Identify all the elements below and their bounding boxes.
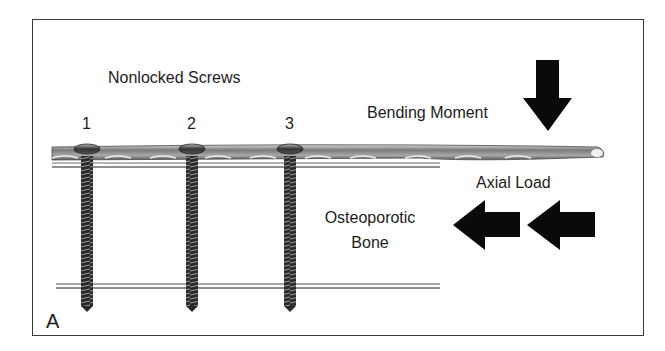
diagram-canvas xyxy=(0,0,665,351)
screw-3 xyxy=(277,144,303,312)
bone-cortex-bottom xyxy=(56,284,440,288)
axial-load-label: Axial Load xyxy=(476,175,551,191)
screw-number-2: 2 xyxy=(187,116,196,132)
nonlocked-screws-label: Nonlocked Screws xyxy=(108,70,241,86)
bone-cortex-top xyxy=(52,163,440,167)
screw-2 xyxy=(179,144,205,312)
axial-load-arrow-icon-1 xyxy=(453,200,520,250)
bending-moment-arrow-icon xyxy=(523,60,572,131)
bending-moment-label: Bending Moment xyxy=(367,105,488,121)
bone-label: Bone xyxy=(310,235,430,251)
axial-load-arrow-icon-2 xyxy=(527,200,595,250)
panel-label: A xyxy=(46,311,59,331)
osteoporotic-label: Osteoporotic xyxy=(310,210,430,226)
screw-number-3: 3 xyxy=(285,116,294,132)
screw-number-1: 1 xyxy=(82,116,91,132)
bone-plate xyxy=(52,145,604,160)
screw-1 xyxy=(74,144,100,312)
